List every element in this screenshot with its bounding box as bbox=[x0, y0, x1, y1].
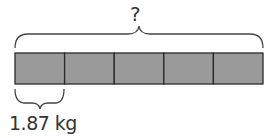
segment-3 bbox=[114, 53, 164, 84]
unit-value-label: 1.87 kg bbox=[9, 112, 77, 134]
tape-bar bbox=[15, 53, 263, 84]
segment-1 bbox=[15, 53, 65, 84]
total-brace bbox=[15, 26, 263, 48]
segment-2 bbox=[65, 53, 115, 84]
unit-brace bbox=[15, 89, 64, 109]
segment-5 bbox=[213, 53, 263, 84]
segment-4 bbox=[164, 53, 214, 84]
